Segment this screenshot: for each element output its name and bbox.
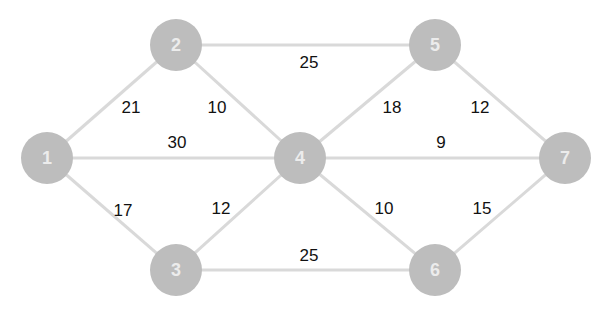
node-label: 2 [171,35,181,55]
edge-weight-3-6: 25 [300,246,319,265]
node-label: 3 [171,260,181,280]
edge-weight-3-4: 12 [212,199,231,218]
node-label: 7 [560,148,570,168]
edge-weight-1-4: 30 [168,133,187,152]
edge-weight-4-6: 10 [375,199,394,218]
node-1: 1 [21,132,73,184]
node-7: 7 [539,132,591,184]
node-2: 2 [150,19,202,71]
node-4: 4 [274,132,326,184]
edge-weight-5-7: 12 [471,98,490,117]
node-5: 5 [409,19,461,71]
edge-weight-2-4: 10 [208,98,227,117]
edge-weight-2-5: 25 [300,53,319,72]
node-label: 4 [295,148,305,168]
edge-4-5 [300,45,435,158]
edge-weight-6-7: 15 [473,199,492,218]
node-label: 1 [42,148,52,168]
node-label: 5 [430,35,440,55]
weighted-graph: 21301710251225189101215 1234567 [0,0,608,312]
edge-weight-4-5: 18 [383,98,402,117]
edge-weight-1-3: 17 [114,201,133,220]
edge-weight-1-2: 21 [122,98,141,117]
node-3: 3 [150,244,202,296]
edge-weight-4-7: 9 [436,133,445,152]
edge-4-6 [300,158,435,270]
node-label: 6 [430,260,440,280]
node-6: 6 [409,244,461,296]
